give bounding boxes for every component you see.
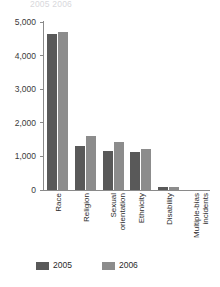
bar-2005 [130, 152, 140, 190]
y-axis-tick-label: 1,000 [15, 151, 36, 161]
bar-group [186, 22, 207, 190]
cropped-title-sliver: 2005 2006 [30, 0, 150, 7]
y-axis-tick: 1,000 [0, 151, 44, 161]
y-axis-tick: 2,000 [0, 118, 44, 128]
y-axis-tick-label: 5,000 [15, 17, 36, 27]
legend-swatch-icon [102, 262, 115, 270]
chart-legend: 20052006 [36, 261, 138, 270]
x-axis-label: Religion [83, 193, 92, 257]
bar-2006 [169, 187, 179, 190]
bar-group [130, 22, 151, 190]
x-axis-label: Sexual orientation [110, 193, 127, 257]
legend-item-2006[interactable]: 2006 [102, 261, 138, 270]
legend-label: 2006 [119, 261, 138, 270]
bar-2006 [141, 149, 151, 190]
x-axis-line [43, 190, 210, 191]
bar-group [47, 22, 68, 190]
bar-2005 [47, 34, 57, 190]
y-axis-tick: 3,000 [0, 84, 44, 94]
x-axis-label: Ethnicity [138, 193, 147, 257]
bar-chart-figure: 2005 2006 5,0004,0003,0002,0001,0000 Rac… [0, 0, 220, 287]
bar-group [158, 22, 179, 190]
bar-group [103, 22, 124, 190]
bar-2005 [158, 187, 168, 190]
plot-area [44, 22, 210, 190]
y-axis-tick: 4,000 [0, 51, 44, 61]
bar-group [75, 22, 96, 190]
y-axis-tick-label: 4,000 [15, 51, 36, 61]
bar-2006 [86, 136, 96, 190]
y-axis-tick: 5,000 [0, 17, 44, 27]
x-axis-label: Race [55, 193, 64, 257]
bar-2005 [75, 146, 85, 190]
y-axis-tick-label: 0 [31, 185, 36, 195]
y-axis-tick-label: 2,000 [15, 118, 36, 128]
y-axis-tick: 0 [0, 185, 44, 195]
legend-swatch-icon [36, 262, 49, 270]
x-axis-label: Multiple-bias incidents [193, 193, 210, 257]
y-axis-tick-label: 3,000 [15, 84, 36, 94]
bar-2006 [58, 32, 68, 190]
bar-2005 [103, 151, 113, 190]
bar-2006 [114, 142, 124, 190]
x-axis-label: Disability [166, 193, 175, 257]
legend-label: 2005 [53, 261, 72, 270]
legend-item-2005[interactable]: 2005 [36, 261, 72, 270]
